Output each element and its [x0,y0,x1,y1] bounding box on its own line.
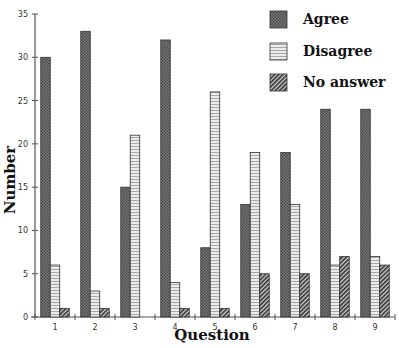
bar-no-answer [220,308,230,317]
legend-swatch-agree [270,11,287,28]
legend-label: Agree [302,11,349,27]
bar-disagree [210,92,220,317]
legend: AgreeDisagreeNo answer [270,11,386,91]
legend-label: Disagree [303,43,372,59]
x-tick-label: 6 [252,323,257,332]
bar-no-answer [60,308,70,317]
grouped-bar-chart: 05101520253035 123456789 Question Number… [0,0,399,348]
bar-agree [161,40,171,317]
bar-agree [81,31,91,317]
y-tick-label: 20 [18,140,28,149]
bar-no-answer [340,256,350,317]
bar-disagree [250,153,260,317]
x-tick-label: 7 [292,323,297,332]
bar-no-answer [100,308,110,317]
y-tick-label: 5 [23,270,28,279]
bar-disagree [50,265,60,317]
x-tick-label: 2 [92,323,97,332]
bar-disagree [330,265,340,317]
bar-disagree [130,135,140,317]
x-tick-label: 3 [132,323,137,332]
bar-disagree [370,256,380,317]
y-tick-label: 15 [18,183,28,192]
bar-no-answer [180,308,190,317]
bar-agree [41,57,51,317]
x-tick-label: 1 [52,323,57,332]
legend-label: No answer [303,74,386,90]
bar-disagree [90,291,100,317]
bar-no-answer [260,274,270,317]
bar-agree [361,109,371,317]
x-tick-label: 8 [332,323,337,332]
y-axis: 05101520253035 [18,10,38,322]
bar-disagree [170,282,180,317]
bar-disagree [290,204,300,317]
legend-swatch-disagree [270,43,287,60]
y-tick-label: 10 [18,226,28,235]
bar-no-answer [380,265,390,317]
legend-swatch-no-answer [270,74,287,91]
bar-agree [121,187,131,317]
bar-no-answer [300,274,310,317]
y-tick-label: 0 [23,313,28,322]
x-axis-title: Question [174,326,250,344]
y-axis-title: Number [1,145,19,215]
bar-agree [321,109,331,317]
bar-agree [241,204,251,317]
y-tick-label: 30 [18,53,28,62]
bar-agree [201,248,211,317]
bar-agree [281,153,291,317]
x-tick-label: 9 [372,323,377,332]
y-tick-label: 25 [18,97,28,106]
y-tick-label: 35 [18,10,28,19]
